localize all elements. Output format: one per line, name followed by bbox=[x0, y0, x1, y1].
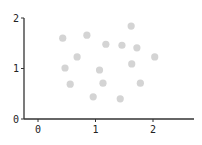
x-tick-label: 0 bbox=[35, 124, 41, 135]
scatter-chart: 012 012 bbox=[0, 0, 202, 145]
data-point bbox=[74, 53, 81, 60]
data-point bbox=[128, 60, 135, 67]
data-point bbox=[96, 66, 103, 73]
y-tick-label: 2 bbox=[13, 13, 19, 24]
data-point bbox=[137, 80, 144, 87]
y-axis-ticks: 012 bbox=[13, 13, 24, 125]
data-points bbox=[59, 22, 158, 102]
data-point bbox=[83, 32, 90, 39]
data-point bbox=[61, 64, 68, 71]
axes bbox=[24, 18, 194, 119]
data-point bbox=[59, 35, 66, 42]
data-point bbox=[133, 44, 140, 51]
data-point bbox=[117, 95, 124, 102]
y-tick-label: 0 bbox=[13, 114, 19, 125]
x-axis-ticks: 012 bbox=[35, 119, 156, 135]
data-point bbox=[128, 22, 135, 29]
x-tick-label: 2 bbox=[150, 124, 156, 135]
data-point bbox=[99, 80, 106, 87]
data-point bbox=[151, 53, 158, 60]
y-tick-label: 1 bbox=[13, 63, 19, 74]
data-point bbox=[90, 93, 97, 100]
data-point bbox=[67, 81, 74, 88]
x-tick-label: 1 bbox=[92, 124, 98, 135]
data-point bbox=[118, 42, 125, 49]
data-point bbox=[102, 41, 109, 48]
